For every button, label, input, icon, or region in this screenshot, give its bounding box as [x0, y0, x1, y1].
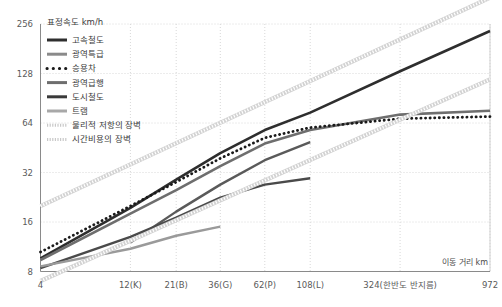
- x-tick-label: 324(한반도 반지름): [363, 280, 437, 290]
- y-tick-label: 32: [22, 168, 33, 178]
- x-tick-label: 108(L): [296, 280, 324, 290]
- x-tick-label: 972: [482, 280, 498, 290]
- legend-label-4: 도시철도: [72, 92, 104, 102]
- speed-distance-log-chart: 2561286432168 412(K)21(B)36(G)62(P)108(L…: [0, 0, 502, 307]
- y-tick-label: 64: [22, 118, 33, 128]
- legend-label-3: 광역급행: [72, 78, 104, 88]
- legend-label-0: 고속철도: [72, 35, 104, 45]
- y-tick-label: 128: [17, 69, 33, 79]
- y-tick-label: 8: [28, 267, 33, 277]
- chart-container: 2561286432168 412(K)21(B)36(G)62(P)108(L…: [0, 0, 502, 307]
- y-tick-label: 256: [17, 19, 33, 29]
- x-tick-label: 4: [38, 280, 43, 290]
- legend-label-5: 트램: [72, 106, 88, 116]
- x-axis-title: 이동 거리 km: [442, 257, 488, 267]
- x-tick-label: 62(P): [253, 280, 276, 290]
- legend-label-7: 시간비용의 장벽: [72, 134, 131, 144]
- x-tick-label: 21(B): [165, 280, 188, 290]
- legend-label-2: 승용차: [72, 63, 96, 73]
- x-tick-label: 36(G): [208, 280, 232, 290]
- legend-title: 표정속도 km/h: [47, 17, 103, 27]
- x-tick-label: 12(K): [119, 280, 142, 290]
- chart-background: [0, 0, 502, 307]
- legend-label-1: 광역특급: [72, 49, 104, 59]
- y-tick-label: 16: [22, 217, 33, 227]
- legend-label-6: 물리적 저항의 장벽: [72, 120, 141, 130]
